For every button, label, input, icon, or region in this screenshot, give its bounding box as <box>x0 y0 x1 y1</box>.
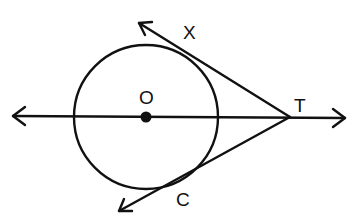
tangent-ray-tc <box>119 117 290 211</box>
label-c: C <box>176 189 190 210</box>
center-point-o <box>141 112 152 123</box>
line-ot <box>13 116 345 118</box>
geometry-diagram: X O T C <box>0 0 349 216</box>
label-o: O <box>139 87 154 108</box>
label-x: X <box>183 22 196 43</box>
tangent-ray-tx <box>139 23 290 117</box>
label-t: T <box>294 95 306 116</box>
